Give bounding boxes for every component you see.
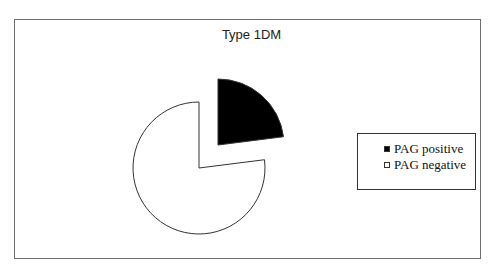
legend-label: PAG positive (394, 141, 463, 157)
legend-item-pag-negative: PAG negative (384, 157, 475, 173)
legend-swatch-white (384, 162, 390, 168)
legend: PAG positive PAG negative (357, 133, 476, 190)
legend-label: PAG negative (394, 157, 466, 173)
legend-item-pag-positive: PAG positive (384, 141, 475, 157)
legend-swatch-black (384, 146, 390, 152)
pie-slice-pag-positive (218, 79, 283, 145)
